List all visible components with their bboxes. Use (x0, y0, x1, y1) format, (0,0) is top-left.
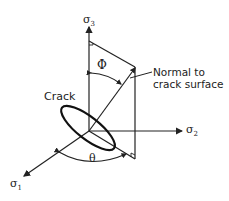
normal-leader (130, 72, 152, 78)
theta-label: θ (89, 152, 96, 165)
phi-arc (91, 73, 121, 84)
sigma1-label: σ1 (10, 177, 22, 192)
phi-label: Φ (97, 58, 107, 72)
plane-top-edge (89, 41, 135, 67)
sigma1-axis (24, 131, 89, 176)
sigma3-label: σ3 (83, 13, 95, 28)
crack-orientation-diagram: σ3 σ2 σ1 Φ θ Crack Normal to crack surfa… (0, 0, 229, 201)
sigma2-label: σ2 (186, 123, 198, 138)
normal-label-line2: crack surface (153, 78, 224, 90)
crack-label: Crack (44, 90, 76, 103)
normal-label-line1: Normal to (153, 66, 205, 78)
